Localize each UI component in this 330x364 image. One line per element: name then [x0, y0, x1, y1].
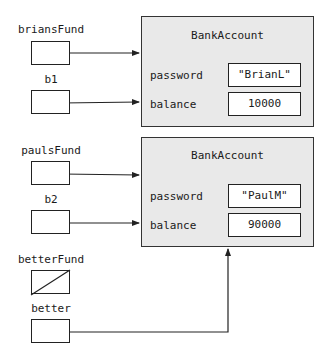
- var-box-b2: [31, 210, 70, 234]
- var-label-b1: b1: [11, 74, 91, 86]
- var-box-b1: [31, 90, 70, 114]
- var-label-briansFund: briansFund: [11, 24, 91, 36]
- object-class-name: BankAccount: [142, 149, 313, 162]
- field-value-password: "BrianL": [228, 63, 301, 87]
- var-label-better: better: [11, 303, 91, 315]
- field-value-balance: 90000: [228, 213, 301, 237]
- var-label-betterFund: betterFund: [11, 254, 91, 266]
- field-name-balance: balance: [150, 219, 196, 232]
- field-value-password: "PaulM": [228, 184, 301, 208]
- var-box-briansFund: [31, 41, 70, 65]
- var-box-better: [31, 319, 70, 343]
- var-box-paulsFund: [31, 161, 70, 185]
- arrow-b1: [62, 102, 139, 103]
- bank-account-object-2: BankAccount password "PaulM" balance 900…: [141, 137, 314, 247]
- var-label-paulsFund: paulsFund: [11, 145, 91, 157]
- field-name-password: password: [150, 69, 203, 82]
- field-name-password: password: [150, 190, 203, 203]
- object-class-name: BankAccount: [142, 29, 313, 42]
- field-name-balance: balance: [150, 98, 196, 111]
- arrow-paulsFund: [62, 174, 139, 175]
- var-box-betterFund-null: [31, 270, 70, 294]
- field-value-balance: 10000: [228, 92, 301, 116]
- bank-account-object-1: BankAccount password "BrianL" balance 10…: [141, 16, 314, 127]
- var-label-b2: b2: [11, 194, 91, 206]
